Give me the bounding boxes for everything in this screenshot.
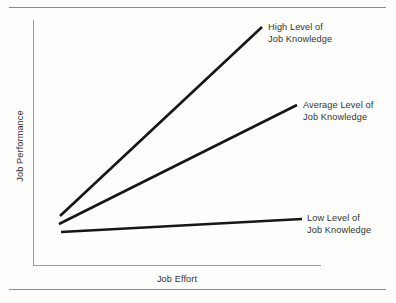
top-divider-rule	[9, 7, 386, 8]
series-label-low-level: Low Level of Job Knowledge	[307, 213, 371, 236]
series-line-average-level	[59, 105, 297, 224]
series-label-high-line2: Job Knowledge	[268, 34, 332, 46]
series-label-average-level: Average Level of Job Knowledge	[303, 100, 373, 123]
plot-area	[0, 0, 396, 303]
series-label-average-line2: Job Knowledge	[303, 112, 373, 124]
series-line-low-level	[61, 219, 302, 232]
series-label-low-line1: Low Level of	[307, 213, 360, 223]
series-line-high-level	[60, 27, 262, 216]
x-axis-line	[33, 265, 321, 266]
y-axis-line	[33, 20, 34, 266]
bottom-divider-rule	[9, 289, 386, 290]
series-label-low-line2: Job Knowledge	[307, 225, 371, 237]
series-label-average-line1: Average Level of	[303, 100, 373, 110]
series-label-high-line1: High Level of	[268, 22, 323, 32]
y-axis-title: Job Performance	[15, 91, 25, 201]
series-label-high-level: High Level of Job Knowledge	[268, 22, 332, 45]
chart-figure: High Level of Job Knowledge Average Leve…	[0, 0, 396, 303]
x-axis-title: Job Effort	[33, 274, 321, 284]
